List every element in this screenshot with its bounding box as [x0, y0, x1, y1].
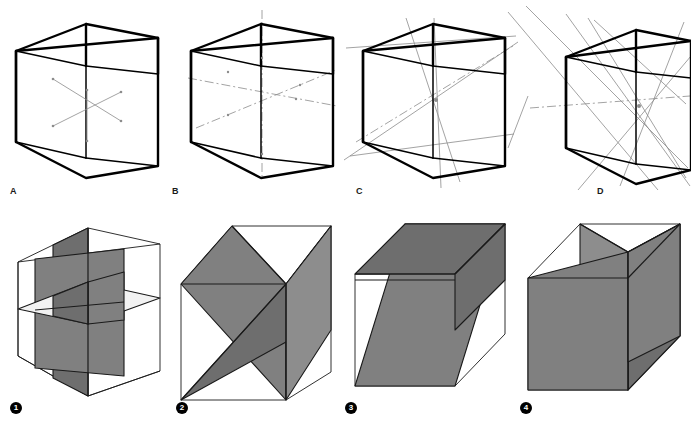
panel-c-rotation-axes: [338, 0, 524, 195]
panel-b-rotation-axes: [172, 6, 350, 186]
panel-number-3: 3: [345, 402, 357, 414]
figure-sheet: A: [0, 0, 691, 421]
panel-2-mirror-planes: [176, 222, 341, 402]
panel-3-mirror-planes: [345, 222, 510, 402]
panel-number-1: 1: [10, 402, 22, 414]
diagonal-plane-c-2: [286, 226, 331, 400]
cube-frame-c: [363, 24, 505, 178]
panel-d-rotation-axes: [508, 0, 691, 195]
edge-midpoint-axes-d: [508, 6, 691, 190]
cube-back-edges-d: [566, 57, 691, 170]
panel-4-mirror-planes: [520, 222, 688, 402]
diagonal-plane-c-4: [528, 252, 628, 390]
panel-label-a: A: [10, 187, 17, 196]
panel-number-2: 2: [176, 402, 188, 414]
panel-label-c: C: [356, 187, 363, 196]
cube-back-edges-c: [363, 51, 505, 166]
rotation-axes-a: [52, 78, 123, 143]
axis-ticks-b: [227, 57, 301, 155]
panel-label-d: D: [597, 187, 604, 196]
panel-label-b: B: [172, 187, 179, 196]
panel-a-rotation-axes: [8, 16, 168, 181]
panel-1-mirror-planes: [10, 226, 165, 401]
panel-number-4: 4: [520, 402, 532, 414]
body-diagonal-axes-c: [344, 18, 518, 188]
